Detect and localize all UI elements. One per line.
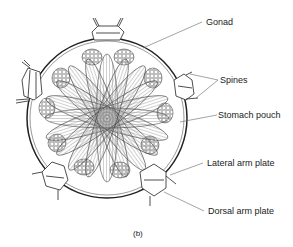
label-gonad: Gonad bbox=[206, 17, 233, 27]
arm-lower-right bbox=[140, 164, 176, 206]
label-lateral-arm-plate: Lateral arm plate bbox=[207, 158, 275, 168]
label-spines: Spines bbox=[220, 75, 248, 85]
figure-caption: (b) bbox=[133, 229, 143, 238]
label-dorsal-arm-plate: Dorsal arm plate bbox=[208, 206, 274, 216]
label-stomach-pouch: Stomach pouch bbox=[218, 110, 281, 120]
arm-upper-left bbox=[16, 60, 42, 103]
arm-top bbox=[92, 18, 124, 40]
brittle-star-cross-section-figure: Gonad Spines Stomach pouch Lateral arm p… bbox=[0, 0, 293, 247]
arm-upper-right bbox=[174, 72, 198, 100]
arm-lower-left bbox=[32, 162, 68, 200]
